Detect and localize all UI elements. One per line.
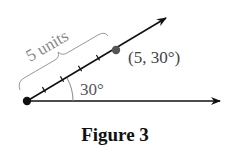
- length-label: 5 units: [23, 26, 72, 65]
- figure-caption: Figure 3: [81, 124, 149, 145]
- point-label: (5, 30°): [128, 48, 180, 67]
- pole-point: [23, 97, 31, 105]
- angle-label: 30°: [80, 80, 104, 99]
- polar-diagram: 5 units (5, 30°) 30° Figure 3: [0, 0, 231, 150]
- angle-arc: [67, 78, 73, 101]
- polar-point: [112, 46, 120, 54]
